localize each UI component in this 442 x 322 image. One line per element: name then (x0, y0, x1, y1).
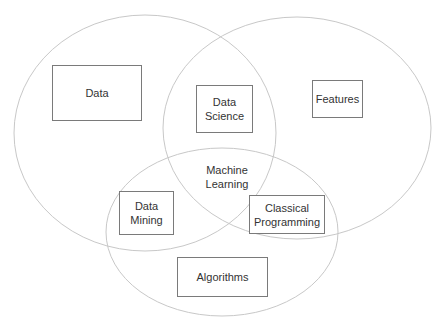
label-data-mining: Data Mining (119, 191, 174, 235)
data-mining-line1: Data (130, 199, 162, 213)
label-classical-programming: Classical Programming (249, 195, 325, 234)
label-data: Data (52, 65, 142, 121)
label-machine-learning: Machine Learning (192, 163, 262, 191)
data-science-line2: Science (205, 109, 244, 123)
label-algorithms: Algorithms (177, 257, 268, 297)
data-text: Data (85, 86, 108, 100)
venn-diagram: Data Data Science Features Machine Learn… (0, 0, 442, 322)
features-text: Features (316, 92, 359, 106)
classical-line2: Programming (254, 215, 320, 229)
machine-learning-line1: Machine (192, 163, 262, 177)
data-mining-line2: Mining (130, 213, 162, 227)
machine-learning-line2: Learning (192, 177, 262, 191)
algorithms-text: Algorithms (197, 270, 249, 284)
classical-line1: Classical (254, 201, 320, 215)
label-data-science: Data Science (196, 85, 253, 133)
data-science-line1: Data (205, 95, 244, 109)
label-features: Features (312, 80, 363, 118)
